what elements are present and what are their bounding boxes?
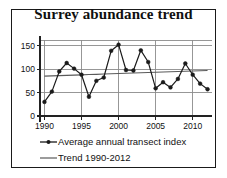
gridlines [40,40,212,116]
y-axis-tick-labels: 050100150 [21,41,35,121]
x-tick-label: 1990 [35,121,54,131]
data-point-marker [198,82,202,86]
axes [37,36,212,122]
data-point-marker [50,90,54,94]
data-point-marker [109,49,113,53]
x-tick-label: 2010 [183,121,202,131]
data-point-marker [161,80,165,84]
data-point-marker [57,70,61,74]
data-point-marker [132,69,136,73]
data-point-marker [102,76,106,80]
data-point-marker [191,73,195,77]
data-point-marker [80,73,84,77]
y-tick-label: 100 [21,64,35,74]
y-tick-label: 150 [21,41,35,51]
y-tick-label: 0 [30,111,35,121]
x-axis-tick-labels: 19901995200020052010 [35,121,202,131]
legend-marker-icon [47,140,51,144]
data-point-marker [206,87,210,91]
legend-label: Trend 1990-2012 [58,152,131,163]
data-point-marker [94,79,98,83]
x-tick-label: 1995 [72,121,91,131]
data-point-marker [183,62,187,66]
data-point-marker [43,100,47,104]
data-point-marker [117,43,121,47]
data-point-marker [139,48,143,52]
data-point-marker [124,68,128,72]
chart-legend: Average annual transect indexTrend 1990-… [40,136,186,163]
data-point-marker [72,67,76,71]
x-tick-label: 2005 [146,121,165,131]
data-point-marker [65,61,69,65]
chart-figure: Surrey abundance trend 19901995200020052… [0,0,227,178]
chart-plot-area: 19901995200020052010 050100150 Average a… [0,0,227,178]
data-point-marker [154,86,158,90]
data-point-marker [176,77,180,81]
data-point-marker [87,95,91,99]
y-tick-label: 50 [26,88,36,98]
legend-label: Average annual transect index [58,136,186,147]
x-tick-label: 2000 [109,121,128,131]
data-point-marker [146,60,150,64]
data-point-marker [169,85,173,89]
